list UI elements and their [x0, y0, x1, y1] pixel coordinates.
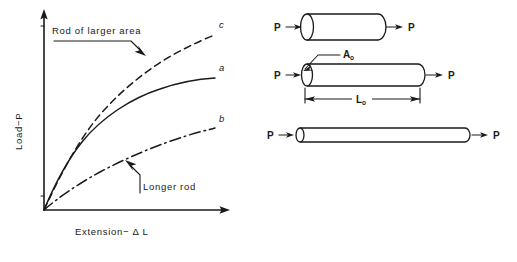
rod-1-right-force: P: [386, 22, 415, 33]
curve-label-a: a: [219, 62, 224, 73]
y-axis-label: Load−P: [13, 113, 24, 150]
rod-1-body: [307, 14, 386, 40]
curve-label-b: b: [219, 113, 224, 124]
rod-2-right-force: P: [426, 70, 455, 81]
rod-1-left-face: [301, 14, 314, 40]
annotation-rod-of-larger-area: Rod of larger area: [52, 25, 146, 56]
rod-1-left-force: P: [274, 22, 302, 33]
curve-b: [44, 128, 215, 210]
y-axis: [40, 9, 47, 210]
rod-2-length-annotation: L o: [305, 88, 420, 106]
x-axis-label: Extension− Δ L: [75, 226, 148, 237]
chart-group: c a b Rod of larger area Longer rod Exte…: [13, 9, 230, 237]
x-axis: [44, 206, 230, 213]
rod-2-body: [307, 64, 425, 86]
rod-diagram-thin-long: P P: [267, 128, 500, 142]
figure-canvas: c a b Rod of larger area Longer rod Exte…: [0, 0, 517, 262]
rod-2-left-force-label: P: [274, 70, 281, 81]
curve-label-c: c: [219, 19, 224, 30]
rod-3-left-face: [296, 128, 304, 142]
rod-2-length-label-subscript: o: [362, 99, 366, 106]
rod-3-body: [300, 128, 470, 142]
rod-2-left-force: P: [274, 70, 301, 81]
rod-3-right-force-label: P: [493, 130, 500, 141]
rod-3-left-force-label: P: [267, 130, 274, 141]
rod-diagram-reference: P P A o L: [274, 49, 455, 106]
rod-3-left-force: P: [267, 130, 294, 141]
annotation-rod-of-larger-area-label: Rod of larger area: [52, 25, 141, 36]
load-extension-figure: c a b Rod of larger area Longer rod Exte…: [0, 0, 517, 262]
rod-1-left-force-label: P: [274, 22, 281, 33]
rod-2-right-force-label: P: [448, 70, 455, 81]
annotation-longer-rod-label: Longer rod: [143, 181, 196, 192]
rod-diagram-thick-short: P P: [274, 14, 415, 40]
rod-1-right-force-label: P: [408, 22, 415, 33]
rod-2-area-label-subscript: o: [350, 54, 354, 61]
annotation-longer-rod: Longer rod: [125, 160, 196, 193]
rod-3-right-force: P: [472, 130, 500, 141]
